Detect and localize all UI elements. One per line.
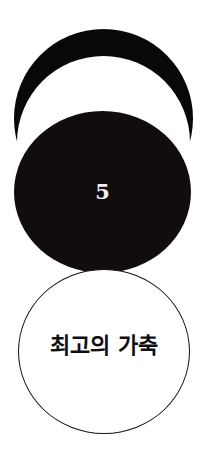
poster-canvas: 5 최고의 가축 (0, 0, 207, 459)
poster-title: 최고의 가축 (19, 334, 189, 358)
chapter-number-circle: 5 (14, 111, 191, 273)
title-circle: 최고의 가축 (18, 269, 190, 434)
chapter-number: 5 (14, 181, 191, 202)
